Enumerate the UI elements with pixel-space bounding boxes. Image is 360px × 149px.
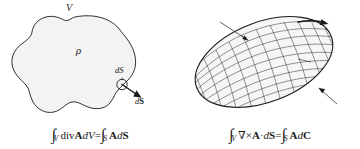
eq2-sub-S: S	[284, 134, 288, 143]
eq1-diff-V: V	[88, 129, 95, 141]
eq2-field-A: A	[252, 129, 260, 141]
eq1-equals: =	[95, 129, 101, 141]
divergence-theorem-equation: ∫VdivAdV=∫SAdS	[0, 126, 180, 142]
eq2-rhs-field-A: A	[290, 129, 298, 141]
label-density-rho-text: ρ	[76, 44, 81, 56]
label-surface-element-dS-vector: dS	[135, 97, 144, 106]
label-density-rho: ρ	[76, 45, 81, 56]
contour-label-leader	[318, 88, 337, 104]
stokes-theorem-panel: S dC dS C ∫V∇×A·dS=∫SAdC	[180, 0, 360, 149]
eq2-rhs-diff-C: C	[303, 129, 311, 141]
surface-ellipse	[182, 0, 345, 125]
eq1-rhs-field-A: A	[109, 129, 117, 141]
eq1-sub-V: V	[54, 134, 59, 143]
figure-root: V ρ dS dS ∫VdivAdV=∫SAdS	[0, 0, 360, 149]
divergence-theorem-diagram	[0, 0, 180, 125]
divergence-theorem-panel: V ρ dS dS ∫VdivAdV=∫SAdS	[0, 0, 180, 149]
eq2-nabla: ∇	[238, 129, 246, 141]
eq1-div-operator: div	[60, 129, 74, 141]
label-volume-V: V	[66, 3, 72, 13]
stokes-theorem-equation: ∫V∇×A·dS=∫SAdC	[180, 126, 360, 142]
label-dS-vector-S: S	[139, 96, 144, 106]
eq1-sub-S: S	[103, 134, 107, 143]
eq2-sub-V: V	[231, 134, 236, 143]
eq1-rhs-diff-S: S	[122, 129, 128, 141]
label-volume-V-text: V	[66, 2, 72, 13]
label-dS-scalar-S: S	[119, 65, 123, 75]
stokes-theorem-diagram	[180, 0, 360, 125]
label-surface-element-dS-scalar: dS	[115, 66, 124, 75]
